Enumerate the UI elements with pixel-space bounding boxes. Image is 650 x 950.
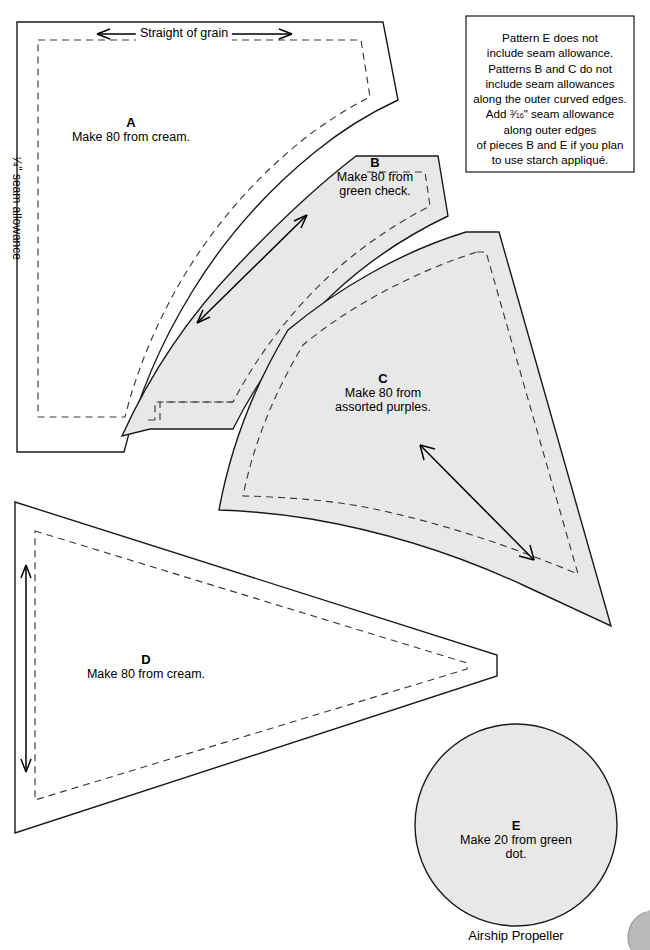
piece-a-description: Make 80 from cream.: [72, 130, 190, 144]
seam-allowance-numerator: 1: [14, 156, 23, 160]
page-curl-artifact: [628, 910, 650, 950]
piece-c-description-line1: Make 80 from: [335, 386, 431, 400]
note-line-3: Patterns B and C do not: [466, 61, 634, 76]
piece-c-label-block: C Make 80 from assorted purples.: [335, 371, 431, 414]
piece-b-label-block: B Make 80 from green check.: [337, 155, 413, 198]
sheet-caption: Airship Propeller: [468, 928, 563, 943]
seam-allowance-suffix: " seam allowance: [10, 166, 24, 260]
note-line-1: Pattern E does not: [466, 30, 634, 45]
piece-b-description-line1: Make 80 from: [337, 170, 413, 184]
note-line-7: of pieces B and E if you plan: [466, 137, 634, 152]
piece-e-description: Make 20 from green dot.: [449, 833, 583, 861]
piece-b-letter: B: [337, 155, 413, 170]
piece-d-label-block: D Make 80 from cream.: [87, 652, 205, 681]
note-line-5: along the outer curved edges.: [466, 91, 634, 106]
note-line-2: include seam allowance.: [466, 45, 634, 60]
note-line-6: along outer edges: [466, 122, 634, 137]
seam-allowance-label: 1⁄4" seam allowance: [10, 156, 24, 260]
note-add-numerator: 3: [510, 108, 514, 117]
piece-d-letter: D: [87, 652, 205, 667]
note-line-8: to use starch appliqué.: [466, 152, 634, 167]
note-add-prefix: Add: [486, 107, 510, 120]
piece-e-letter: E: [449, 818, 583, 833]
piece-e-label-block: E Make 20 from green dot.: [449, 818, 583, 861]
piece-d-description: Make 80 from cream.: [87, 667, 205, 681]
note-line-4: include seam allowances: [466, 76, 634, 91]
piece-c-description-line2: assorted purples.: [335, 400, 431, 414]
note-add-suffix: " seam allowance: [524, 107, 614, 120]
pattern-sheet: Straight of grain 1⁄4" seam allowance A …: [0, 0, 650, 950]
note-add-denominator: 16: [516, 112, 524, 121]
note-line-add: Add 3⁄16" seam allowance: [466, 106, 634, 121]
piece-a-label-block: A Make 80 from cream.: [72, 115, 190, 144]
straight-of-grain-label: Straight of grain: [136, 26, 232, 41]
piece-b-description-line2: green check.: [337, 184, 413, 198]
piece-c-letter: C: [335, 371, 431, 386]
piece-a-letter: A: [72, 115, 190, 130]
note-text-block: Pattern E does not include seam allowanc…: [466, 30, 634, 168]
